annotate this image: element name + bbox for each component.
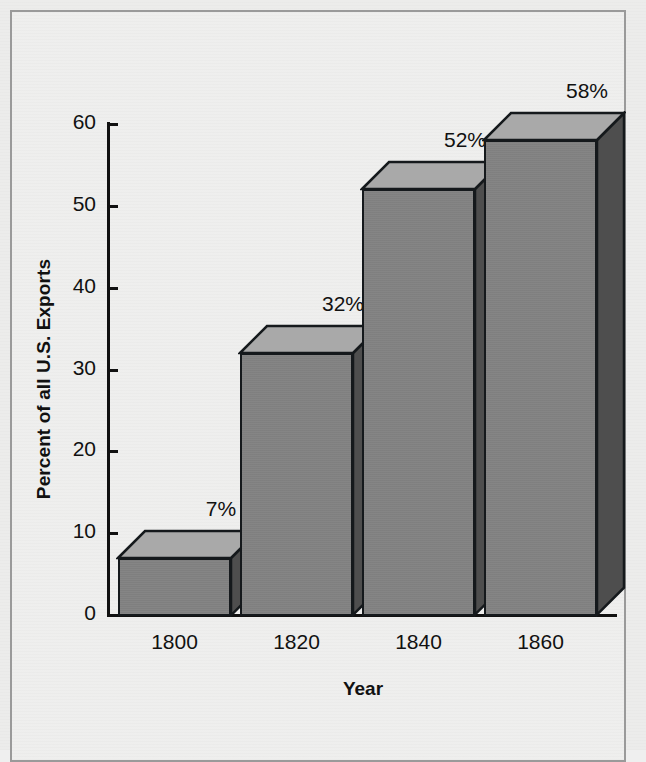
bar-side-shape-1860 [595, 111, 626, 617]
y-tick-0 [107, 614, 118, 617]
bar-front-face-1820 [240, 353, 353, 616]
bar-front-face-1860 [484, 140, 597, 616]
bar-front-face-1840 [362, 189, 475, 616]
bar-top-face-1820 [238, 324, 382, 355]
y-tick-20 [107, 450, 118, 453]
bar-front-face-1800 [118, 558, 231, 616]
x-axis-title: Year [0, 678, 646, 700]
x-tick-label-1800: 1800 [115, 630, 235, 654]
x-tick-label-1820: 1820 [237, 630, 357, 654]
bar-top-face-1840 [360, 160, 504, 191]
y-tick-50 [107, 205, 118, 208]
y-tick-label-0: 0 [34, 601, 96, 625]
y-axis-title: Percent of all U.S. Exports [33, 209, 55, 549]
bar-value-label-1860: 58% [532, 79, 642, 103]
y-tick-40 [107, 287, 118, 290]
bar-top-face-1800 [116, 529, 260, 560]
y-tick-label-60: 60 [34, 110, 96, 134]
y-tick-60 [107, 123, 118, 126]
x-tick-label-1840: 1840 [359, 630, 479, 654]
x-tick-label-1860: 1860 [481, 630, 601, 654]
bar-top-face-1860 [482, 111, 626, 142]
y-tick-30 [107, 369, 118, 372]
